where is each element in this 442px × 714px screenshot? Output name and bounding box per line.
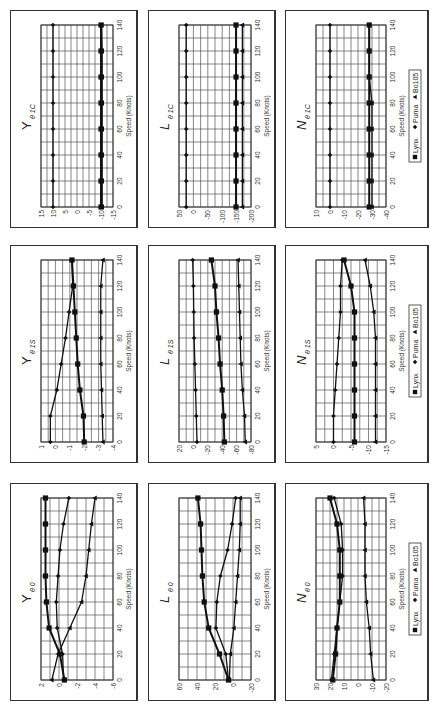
legend-label-bo105: Bo105 [412,73,419,93]
x-tick-label: 40 [116,386,123,394]
x-tick-label: 120 [389,518,396,529]
chart-title-subscript: θ 1C [29,103,36,119]
y-tick-label: 2 [38,683,45,687]
data-marker [352,413,357,418]
y-tick-label: 0 [190,210,197,214]
data-marker [43,495,48,500]
data-marker [222,439,227,444]
chart-panel-y-theta1s: Yθ 1S10-1-2-3-4020406080100120140Speed (… [10,245,138,463]
data-marker [77,387,82,392]
data-marker [328,49,333,54]
x-tick-label: 140 [254,19,261,30]
data-marker [328,23,333,28]
x-tick-label: 60 [389,125,396,133]
y-tick-label: 20 [212,683,219,691]
data-marker [51,179,56,184]
legend-label-puma: Puma [412,105,419,123]
chart-title: Y [19,594,34,603]
data-marker [184,205,189,210]
chart-title-subscript: θ 0 [167,582,174,592]
x-tick-label: 60 [254,598,261,606]
legend-marker-lynx [413,390,417,394]
y-tick-label: 0 [330,445,337,449]
data-marker [194,414,199,419]
chart-legend: LynxPumaBo105 [409,70,421,162]
data-marker [193,388,198,393]
x-tick-label: 120 [254,518,261,529]
x-tick-label: 120 [116,518,123,529]
x-tick-label: 80 [116,572,123,580]
x-tick-label: 60 [116,598,123,606]
data-marker [233,100,238,105]
data-marker [51,127,56,132]
chart-title-subscript: θ 0 [29,582,36,592]
x-tick-label: 100 [389,306,396,317]
chart-svg: Yθ 1S10-1-2-3-4020406080100120140Speed (… [11,246,139,464]
x-tick-label: 60 [116,125,123,133]
data-marker [233,48,238,53]
data-marker [220,387,225,392]
y-tick-label: 0 [52,445,59,449]
y-tick-label: -2 [81,445,88,451]
data-marker [217,361,222,366]
chart-panel-l-theta1c: Lθ 1C500-50-100-150-20002040608010012014… [148,10,276,228]
data-marker [328,101,333,106]
y-tick-label: 1 [38,445,45,449]
x-tick-label: 140 [116,254,123,265]
chart-title: N [294,593,309,603]
x-tick-label: 0 [116,678,123,682]
x-tick-label: 120 [116,280,123,291]
x-tick-label: 40 [254,386,261,394]
chart-title: L [157,123,172,130]
x-tick-label: 0 [254,678,261,682]
data-marker [336,336,341,341]
data-marker [218,574,223,579]
y-tick-label: 60 [176,683,183,691]
x-tick-label: 140 [389,254,396,265]
chart-panel-y-theta1c: Yθ 1C151050-5-10-15020406080100120140Spe… [10,10,138,228]
y-tick-label: 50 [176,210,183,218]
chart-panel-n-theta1c: Nθ 1C100-10-20-30-40020406080100120140Sp… [285,10,429,228]
chart-svg: Lθ 1S200-20-40-60-80020406080100120140Sp… [149,246,277,464]
data-marker [352,439,357,444]
x-axis-label: Speed (Knots) [263,568,271,610]
data-marker [328,179,333,184]
y-tick-label: -4 [110,445,117,451]
data-marker [43,521,48,526]
y-tick-label: 0 [230,683,237,687]
legend-label-lynx: Lynx [412,138,420,153]
x-tick-label: 140 [254,492,261,503]
x-tick-label: 100 [254,306,261,317]
chart-legend: LynxPumaBo105 [409,543,421,635]
data-marker [184,75,189,80]
x-axis-label: Speed (Knots) [398,568,406,610]
x-tick-label: 20 [254,650,261,658]
data-marker [192,336,197,341]
x-tick-label: 60 [254,360,261,368]
legend-marker-lynx [413,155,417,159]
data-marker [51,49,56,54]
data-marker [233,178,238,183]
y-tick-label: -10 [341,210,348,220]
y-tick-label: -6 [110,683,117,689]
x-axis-label: Speed (Knots) [125,95,133,137]
x-tick-label: 140 [254,254,261,265]
x-tick-label: 40 [389,151,396,159]
data-marker [184,23,189,28]
x-tick-label: 120 [389,280,396,291]
x-tick-label: 0 [389,678,396,682]
data-marker [233,204,238,209]
y-tick-label: 0 [327,210,334,214]
y-tick-label: -1 [66,445,73,451]
data-marker [233,496,238,501]
x-tick-label: 100 [116,71,123,82]
x-tick-label: 100 [116,544,123,555]
x-tick-label: 80 [254,572,261,580]
chart-svg: Nθ 1S50-5-10-15020406080100120140Speed (… [286,246,430,464]
data-marker [61,522,66,527]
y-tick-label: -100 [219,210,226,223]
data-marker [230,522,235,527]
x-tick-label: 140 [389,19,396,30]
chart-title-subscript: θ 1S [167,339,174,354]
x-tick-label: 80 [254,99,261,107]
